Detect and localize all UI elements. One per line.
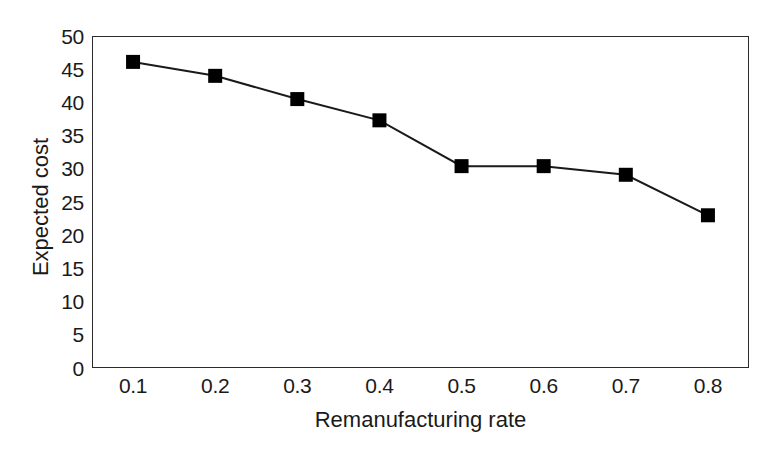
- x-axis-tick-label: 0.1: [98, 374, 168, 398]
- x-axis-title: Remanufacturing rate: [92, 407, 749, 433]
- y-axis-tick-label: 25: [50, 192, 84, 213]
- y-axis-tick-label: 30: [50, 158, 84, 179]
- x-axis-tick-label: 0.4: [344, 374, 414, 398]
- data-point-marker: [455, 159, 469, 173]
- y-axis-tick-label: 15: [50, 258, 84, 279]
- data-point-marker: [126, 55, 140, 69]
- x-axis-tick-label: 0.5: [427, 374, 497, 398]
- chart-container: 05101520253035404550 0.10.20.30.40.50.60…: [0, 0, 776, 452]
- data-line: [133, 62, 708, 215]
- x-axis-tick-label: 0.8: [673, 374, 743, 398]
- data-point-marker: [372, 113, 386, 127]
- y-axis-tick-label: 10: [50, 291, 84, 312]
- x-axis-tick-label: 0.3: [262, 374, 332, 398]
- y-axis-tick-label: 20: [50, 225, 84, 246]
- x-axis-tick-label: 0.6: [509, 374, 579, 398]
- data-point-marker: [290, 92, 304, 106]
- y-axis-tick-label: 40: [50, 92, 84, 113]
- x-axis-tick-label: 0.7: [591, 374, 661, 398]
- data-point-marker: [619, 168, 633, 182]
- y-axis-title: Expected cost: [28, 82, 54, 332]
- plot-area: [92, 36, 749, 368]
- data-markers: [126, 55, 715, 222]
- data-point-marker: [537, 159, 551, 173]
- data-point-marker: [701, 208, 715, 222]
- x-axis-tick-label: 0.2: [180, 374, 250, 398]
- y-axis-tick-label: 45: [50, 59, 84, 80]
- data-point-marker: [208, 69, 222, 83]
- y-axis-tick-label: 5: [50, 324, 84, 345]
- y-axis-tick-label: 35: [50, 125, 84, 146]
- y-axis-tick-label: 50: [50, 26, 84, 47]
- y-axis-tick-label: 0: [50, 358, 84, 379]
